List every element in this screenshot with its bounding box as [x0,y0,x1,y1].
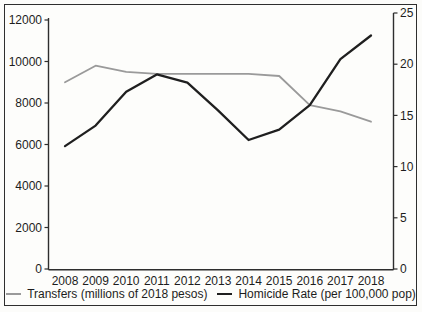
x-axis-tick-label: 2012 [174,274,201,288]
chart-legend: Transfers (millions of 2018 pesos) Homic… [0,287,422,301]
x-axis-tick-label: 2008 [52,274,79,288]
legend-label-homicide-rate: Homicide Rate (per 100,000 pop) [238,287,415,301]
right-axis-tick-label: 10 [400,160,414,174]
x-axis-tick-label: 2015 [266,274,293,288]
left-axis-tick-label: 6000 [15,138,42,152]
x-axis-tick-label: 2017 [327,274,354,288]
left-axis-tick-label: 10000 [9,55,43,69]
x-axis-tick-label: 2010 [113,274,140,288]
right-axis-tick-label: 0 [400,262,407,276]
left-axis-tick-label: 12000 [9,13,43,27]
legend-item-homicide-rate: Homicide Rate (per 100,000 pop) [217,287,415,301]
left-axis-tick-label: 2000 [15,221,42,235]
right-axis-tick-label: 15 [400,109,414,123]
legend-label-transfers: Transfers (millions of 2018 pesos) [27,287,207,301]
x-axis-tick-label: 2009 [82,274,109,288]
x-axis-tick-label: 2014 [235,274,262,288]
left-axis-tick-label: 8000 [15,96,42,110]
x-axis-tick-label: 2018 [358,274,385,288]
x-axis-tick-label: 2011 [144,274,170,288]
legend-item-transfers: Transfers (millions of 2018 pesos) [6,287,207,301]
homicide-rate-line [65,36,371,147]
dual-axis-line-chart: 0200040006000800010000120000510152025200… [0,0,422,312]
x-axis-tick-label: 2013 [205,274,232,288]
transfers-line-swatch [6,293,21,295]
transfers-line [65,66,371,122]
left-axis-tick-label: 0 [35,262,42,276]
right-axis-tick-label: 25 [400,6,414,20]
homicide-rate-line-swatch [217,293,232,295]
right-axis-tick-label: 20 [400,57,414,71]
chart-canvas: 0200040006000800010000120000510152025200… [0,0,422,312]
right-axis-tick-label: 5 [400,211,407,225]
left-axis-tick-label: 4000 [15,179,42,193]
x-axis-tick-label: 2016 [296,274,323,288]
